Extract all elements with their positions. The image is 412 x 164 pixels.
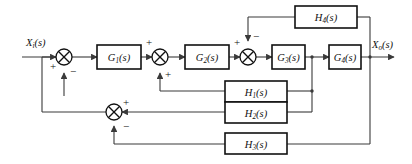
- block-h4[interactable]: H4(s): [295, 6, 357, 28]
- input-signal-suffix: (s): [34, 37, 46, 49]
- block-h3-suffix: (s): [256, 139, 268, 151]
- node-dot-h1-h2-split: [310, 89, 313, 92]
- node-dot-g3-tap: [310, 55, 313, 58]
- sign-s1-bottom: −: [70, 65, 76, 77]
- block-h1-suffix: (s): [256, 87, 268, 99]
- sign-s1-left: +: [50, 60, 56, 72]
- block-h3[interactable]: H3(s): [225, 133, 287, 154]
- output-signal-suffix: (s): [382, 39, 394, 51]
- sign-s2-bottom: +: [165, 68, 171, 80]
- sign-s3-left: +: [234, 36, 240, 48]
- node-dot-output: [368, 55, 371, 58]
- sign-s2-left: +: [146, 36, 152, 48]
- block-g2[interactable]: G2(s): [185, 45, 229, 69]
- input-signal-label: Xi(s): [25, 37, 46, 50]
- sign-s3-top: −: [253, 30, 259, 42]
- block-h2[interactable]: H2(s): [225, 102, 287, 123]
- block-g1-suffix: (s): [119, 52, 131, 64]
- block-h1[interactable]: H1(s): [225, 81, 287, 102]
- diagram-canvas: + − + + + − + − G1(s): [0, 0, 412, 164]
- block-g4[interactable]: G4(s): [329, 45, 361, 69]
- block-g2-suffix: (s): [207, 52, 219, 64]
- sign-s4-bottom: −: [123, 120, 129, 132]
- block-diagram-figure: + − + + + − + − G1(s): [0, 0, 412, 164]
- summing-junction-s3[interactable]: [240, 49, 256, 65]
- summing-junction-s2[interactable]: [152, 49, 168, 65]
- summing-junction-s1[interactable]: [56, 49, 72, 65]
- sign-s4-right: +: [123, 96, 129, 108]
- block-g3-suffix: (s): [289, 52, 301, 64]
- output-signal-label: Xo(s): [371, 39, 394, 52]
- block-g3[interactable]: G3(s): [272, 45, 305, 69]
- block-h4-suffix: (s): [326, 12, 338, 24]
- block-h2-suffix: (s): [256, 108, 268, 120]
- summing-junction-s4[interactable]: [106, 104, 122, 120]
- block-g1[interactable]: G1(s): [97, 45, 141, 69]
- block-g4-suffix: (s): [345, 52, 357, 64]
